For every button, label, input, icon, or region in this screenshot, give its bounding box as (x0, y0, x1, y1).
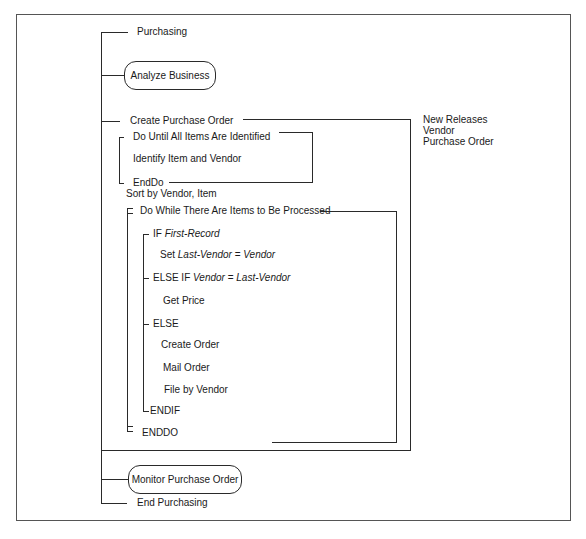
do-until-box-bottom (169, 182, 313, 183)
label-create-po: Create Purchase Order (130, 115, 233, 127)
create-po-box-bottom (101, 450, 411, 451)
do-until-box-right (312, 132, 313, 183)
data-flow-vendor: Vendor (423, 125, 494, 136)
elseif-keyword: ELSE IF (153, 272, 190, 283)
set-keyword: Set (160, 249, 175, 260)
set-eq: = (235, 249, 241, 260)
label-do-until: Do Until All Items Are Identified (133, 131, 270, 143)
connector-purchasing (101, 32, 128, 33)
do-until-bracket-top (119, 137, 124, 138)
diagram-frame (16, 14, 571, 521)
do-until-bracket-bottom (119, 183, 124, 184)
label-if: IF First-Record (153, 228, 220, 240)
set-lhs: Last-Vendor (178, 249, 232, 260)
if-keyword: IF (153, 228, 162, 239)
label-analyze-business: Analyze Business (131, 70, 210, 81)
label-end-purchasing: End Purchasing (137, 497, 208, 509)
node-monitor-po: Monitor Purchase Order (128, 465, 242, 494)
elseif-lhs: Vendor (193, 272, 225, 283)
create-po-box-top (243, 119, 410, 120)
do-while-box-top (320, 211, 397, 212)
label-purchasing: Purchasing (137, 26, 187, 38)
do-while-bracket (127, 208, 128, 431)
elseif-rhs: Last-Vendor (236, 272, 290, 283)
else-tick (143, 324, 149, 325)
main-spine (101, 32, 102, 504)
if-bracket (143, 234, 144, 412)
do-while-bracket-bottom2 (127, 426, 133, 427)
label-identify-item: Identify Item and Vendor (133, 153, 241, 165)
endif-tick (143, 411, 149, 412)
label-create-order: Create Order (161, 339, 219, 351)
label-file-by-vendor: File by Vendor (164, 384, 228, 396)
label-sort: Sort by Vendor, Item (126, 188, 217, 200)
connector-end-purchasing (101, 503, 127, 504)
label-enddo-outer: ENDDO (142, 427, 178, 439)
connector-monitor-po (101, 479, 129, 480)
label-endif: ENDIF (150, 405, 180, 417)
do-until-box-top (279, 132, 313, 133)
label-monitor-po: Monitor Purchase Order (132, 474, 239, 485)
label-get-price: Get Price (163, 295, 205, 307)
do-until-bracket (119, 137, 120, 183)
create-po-box-right (410, 119, 411, 450)
label-else: ELSE (153, 318, 179, 330)
if-bracket-top (143, 234, 149, 235)
set-rhs: Vendor (243, 249, 275, 260)
connector-analyze-business (101, 75, 125, 76)
data-flow-list: New Releases Vendor Purchase Order (423, 114, 494, 147)
elseif-tick (143, 278, 149, 279)
label-do-while: Do While There Are Items to Be Processed (140, 205, 330, 217)
do-while-bracket-bottom (127, 431, 133, 432)
node-analyze-business: Analyze Business (124, 61, 216, 90)
data-flow-new-releases: New Releases (423, 114, 494, 125)
elseif-eq: = (228, 272, 234, 283)
label-else-if: ELSE IF Vendor = Last-Vendor (153, 272, 290, 284)
label-set-last-vendor: Set Last-Vendor = Vendor (160, 249, 275, 261)
do-while-box-bottom (272, 442, 397, 443)
data-flow-purchase-order: Purchase Order (423, 136, 494, 147)
do-while-bracket-mid (127, 213, 133, 214)
label-mail-order: Mail Order (163, 362, 210, 374)
do-while-bracket-top (127, 208, 133, 209)
connector-create-po (101, 121, 120, 122)
do-while-box-right (396, 211, 397, 443)
if-condition: First-Record (165, 228, 220, 239)
